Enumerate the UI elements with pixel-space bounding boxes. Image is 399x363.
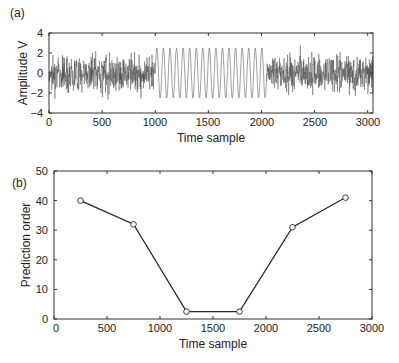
a-xtick: 1500 bbox=[196, 116, 220, 128]
b-xtick: 3000 bbox=[360, 322, 384, 334]
panel-a-plot-area bbox=[49, 33, 373, 113]
a-xtick: 2000 bbox=[250, 116, 274, 128]
panel-b-x-ticks: 0 500 1000 1500 2000 2500 3000 bbox=[53, 322, 384, 334]
data-point-marker bbox=[343, 195, 349, 201]
panel-a-x-ticks: 0 500 1000 1500 2000 2500 3000 bbox=[46, 116, 380, 128]
b-y-axis-label: Prediction order bbox=[19, 203, 33, 288]
panel-b-y-ticks: 50 40 30 20 10 0 bbox=[36, 165, 48, 325]
a-xtick: 1000 bbox=[143, 116, 167, 128]
a-ytick: 0 bbox=[37, 67, 43, 79]
a-x-axis-label: Time sample bbox=[177, 131, 246, 145]
b-xtick: 2000 bbox=[254, 322, 278, 334]
data-point-marker bbox=[131, 221, 137, 227]
a-ytick: 4 bbox=[37, 27, 43, 39]
data-point-marker bbox=[290, 224, 296, 230]
b-ytick: 10 bbox=[36, 283, 48, 295]
panel-b-frame bbox=[54, 171, 372, 319]
b-ytick: 30 bbox=[36, 224, 48, 236]
figure: (a) 4 2 0 −2 −4 0 500 1000 1500 2000 250… bbox=[0, 0, 399, 363]
b-xtick: 0 bbox=[53, 322, 59, 334]
panel-a-y-ticks: 4 2 0 −2 −4 bbox=[30, 27, 43, 119]
panel-a-label: (a) bbox=[10, 6, 25, 20]
a-ytick: −2 bbox=[30, 87, 43, 99]
panel-b-label: (b) bbox=[12, 176, 27, 190]
a-ytick: 2 bbox=[37, 47, 43, 59]
a-ytick: −4 bbox=[30, 107, 43, 119]
b-ytick: 0 bbox=[42, 313, 48, 325]
a-y-axis-label: Amplitude V bbox=[16, 41, 30, 106]
b-xtick: 2500 bbox=[307, 322, 331, 334]
b-xtick: 1500 bbox=[201, 322, 225, 334]
b-xtick: 500 bbox=[98, 322, 116, 334]
b-ytick: 20 bbox=[36, 254, 48, 266]
b-ytick: 50 bbox=[36, 165, 48, 177]
b-ytick: 40 bbox=[36, 195, 48, 207]
a-xtick: 500 bbox=[93, 116, 111, 128]
b-xtick: 1000 bbox=[148, 322, 172, 334]
data-point-marker bbox=[237, 309, 243, 315]
a-xtick: 3000 bbox=[356, 116, 380, 128]
b-x-axis-label: Time sample bbox=[179, 337, 248, 351]
data-point-marker bbox=[184, 309, 190, 315]
a-xtick: 0 bbox=[46, 116, 52, 128]
panel-b-tick-marks bbox=[54, 171, 372, 319]
panel-b-plot-area bbox=[78, 195, 349, 315]
a-xtick: 2500 bbox=[303, 116, 327, 128]
data-point-marker bbox=[78, 198, 84, 204]
